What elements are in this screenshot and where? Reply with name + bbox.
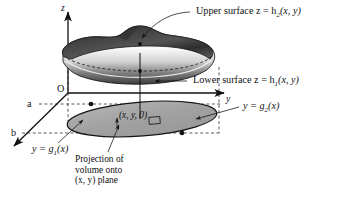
g1-label: y = g1(x) bbox=[32, 143, 68, 157]
x-tick-label-a: a bbox=[27, 98, 32, 109]
lower-surface-label: Lower surface z = h1(x, y) bbox=[193, 74, 299, 88]
g1-text: y = g bbox=[32, 143, 54, 154]
g2-label: y = g2(x) bbox=[243, 100, 279, 114]
g1-args: (x) bbox=[57, 143, 68, 154]
figure-canvas: z y O a b Upper surface z = h2(x, y) Low… bbox=[0, 0, 338, 200]
lower-surface-text: Lower surface z = h bbox=[193, 74, 275, 85]
tangent-point-a bbox=[89, 102, 94, 107]
projection-caption-line1: Projection of bbox=[75, 154, 124, 165]
projection-caption-line3: (x, y) plane bbox=[75, 175, 124, 186]
upper-surface-args: (x, y) bbox=[280, 5, 301, 16]
y-axis-label: y bbox=[226, 94, 230, 105]
diagram-vector-layer bbox=[0, 0, 338, 200]
solid-volume bbox=[62, 26, 214, 84]
x-axis bbox=[14, 93, 68, 146]
projection-caption: Projection of volume onto (x, y) plane bbox=[75, 154, 124, 186]
lower-surface-point bbox=[138, 69, 142, 73]
z-axis-label: z bbox=[61, 3, 65, 14]
tangent-point-b bbox=[180, 131, 185, 136]
point-xy0-label: (x, y, 0) bbox=[119, 110, 147, 121]
upper-surface-point bbox=[138, 42, 142, 46]
lower-surface-args: (x, y) bbox=[278, 74, 299, 85]
projection-caption-line2: volume onto bbox=[75, 165, 124, 176]
g2-args: (x) bbox=[268, 100, 279, 111]
origin-label: O bbox=[57, 83, 64, 94]
upper-surface-label: Upper surface z = h2(x, y) bbox=[196, 5, 301, 19]
upper-surface-text: Upper surface z = h bbox=[196, 5, 276, 16]
x-tick-label-b: b bbox=[11, 127, 16, 138]
g2-text: y = g bbox=[243, 100, 265, 111]
